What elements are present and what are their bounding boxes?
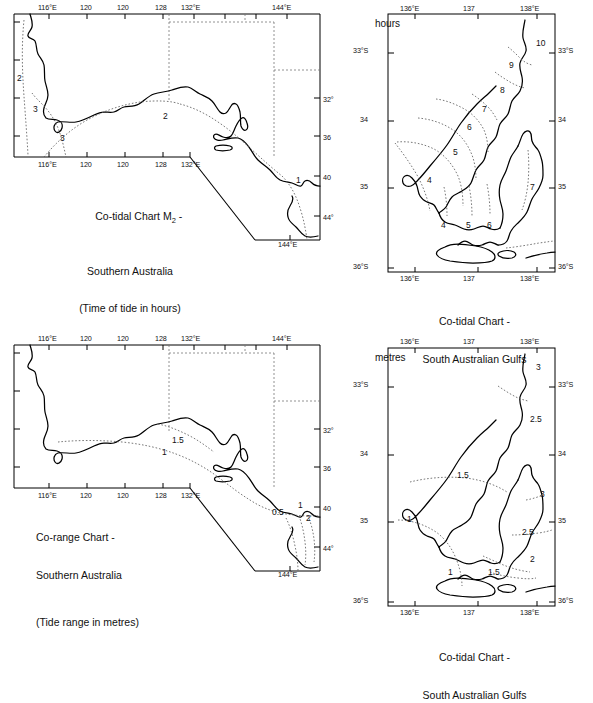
state-borders	[169, 14, 320, 158]
axis-label-x-top-0: 116°E	[38, 3, 57, 12]
panel-cotidal-sa-gulfs: hours 136°E 137 138°E 136°E 137 138°E 33…	[340, 0, 593, 320]
axis-label-x-top-0: 136°E	[400, 337, 419, 346]
contour-label-4: 6	[467, 122, 472, 132]
coastline-south-east-coast	[458, 241, 498, 246]
contour-4-lower	[444, 187, 447, 216]
contour-label-2: 3	[60, 133, 65, 143]
axis-label-x-bottom-2: 138°E	[520, 274, 539, 283]
contour-label-5: 2.5	[522, 527, 534, 537]
contour-1-lower	[457, 561, 462, 586]
ticks-left	[14, 353, 20, 467]
axis-label-y-right-1: 34	[558, 449, 566, 458]
axis-label-y-right-3: 36°S	[558, 596, 573, 605]
axis-label-x-bottom-1: 137	[463, 274, 475, 283]
contour-label-5: 5	[453, 147, 458, 157]
contour-1-west	[398, 520, 457, 561]
axis-label-y-right-2: 40	[323, 173, 331, 182]
contour-lines	[398, 386, 552, 586]
caption-cotidal-southern-australia: Co-tidal Chart M2 - Southern Australia (…	[30, 172, 230, 340]
axis-label-x-bottom-1: 120	[80, 491, 92, 500]
frame-box	[388, 14, 555, 272]
contour-label-2: 8	[500, 85, 505, 95]
coastline-mainland-south	[526, 586, 555, 592]
caption-line-1-main: Co-tidal Chart M	[95, 210, 171, 222]
coastline-kangaroo-island	[436, 244, 495, 263]
caption-line-1: Co-tidal Chart -	[392, 315, 557, 328]
contour-1	[58, 441, 320, 517]
island-outline	[215, 476, 233, 482]
coastline-gulf-st-vincent-west	[499, 480, 518, 562]
axis-label-x-top-5: 144°E	[272, 334, 291, 343]
contour-label-1: 1	[162, 447, 167, 457]
axis-label-x-top-1: 120	[80, 3, 92, 12]
island-outline	[215, 145, 233, 151]
caption-line-1: Co-tidal Chart -	[392, 651, 557, 664]
axis-label-x-top-1: 137	[463, 337, 475, 346]
axis-label-x-bottom-3: 128	[155, 491, 167, 500]
caption-line-1: Co-tidal Chart M2 -	[30, 197, 230, 240]
caption-line-1: Co-range Chart -	[36, 531, 236, 544]
caption-corange-sa-gulfs: Co-tidal Chart - South Australian Gulfs	[392, 626, 557, 703]
coastline-small-island-east	[498, 585, 516, 593]
contour-label-6: 4	[427, 175, 432, 185]
caption-line-2: Southern Australia	[30, 265, 230, 278]
coastline-mainland-south	[526, 252, 555, 258]
contour-label-3: 3	[540, 489, 545, 499]
map-cotidal-sa-gulfs: 10 9 8 7 6 5 4 4 5 6 7	[340, 0, 593, 320]
axis-label-x-top-2: 120	[117, 3, 129, 12]
axis-label-y-right-0: 32°	[323, 95, 334, 104]
contour-label-7: 4	[441, 220, 446, 230]
contour-label-0: 3	[536, 362, 541, 372]
axis-label-y-right-3: 44°	[323, 544, 334, 553]
contour-3-upper	[32, 93, 66, 157]
caption-line-2: South Australian Gulfs	[392, 689, 557, 702]
axis-label-x-bottom-4: 132°E	[181, 160, 200, 169]
axis-label-x-bottom-0: 116°E	[38, 491, 57, 500]
axis-label-y-left-1: 34	[360, 115, 368, 124]
axis-label-x-top-3: 128	[155, 334, 167, 343]
axis-label-y-right-0: 33°S	[558, 380, 573, 389]
contour-label-9: 6	[487, 220, 492, 230]
coastline-spencer-gulf	[439, 20, 526, 213]
axis-label-x-top-5: 144°E	[272, 3, 291, 12]
contour-label-10: 7	[530, 182, 535, 192]
contour-label-8: 1.5	[488, 567, 500, 577]
contour-east-tail	[506, 241, 555, 248]
axis-label-x-bottom-2: 120	[117, 160, 129, 169]
contour-label-2: 0.5	[272, 507, 284, 517]
axis-label-y-left-2: 35	[360, 516, 368, 525]
axis-label-y-left-0: 33°S	[353, 380, 368, 389]
axis-label-y-right-1: 36	[323, 133, 331, 142]
contour-2p5-upper	[498, 386, 528, 401]
axis-label-x-bottom-3: 128	[155, 160, 167, 169]
ticks-top	[49, 14, 287, 19]
axis-label-x-bottom-0: 116°E	[38, 160, 57, 169]
axis-label-x-top-2: 138°E	[520, 337, 539, 346]
axis-label-x-bottom-4: 132°E	[181, 491, 200, 500]
unit-label-hours: hours	[375, 18, 400, 29]
axis-label-y-left-0: 33°S	[353, 46, 368, 55]
coastline-fleurieu	[498, 131, 543, 245]
coastline-eyre-peninsula	[403, 420, 496, 547]
axis-label-x-top-1: 120	[80, 334, 92, 343]
ticks-right	[314, 98, 320, 216]
axis-label-x-top-3: 128	[155, 3, 167, 12]
axis-label-x-bottom-right: 144°E	[278, 240, 297, 249]
axis-label-y-right-2: 40	[323, 504, 331, 513]
contour-label-7: 1	[448, 567, 453, 577]
coastline-small-island-east	[498, 251, 516, 259]
caption-line-2: Southern Australia	[36, 569, 236, 582]
contour-1-east	[299, 516, 306, 565]
panel-cotidal-southern-australia: 116°E 120 120 128 132°E 144°E 116°E 120 …	[0, 0, 340, 300]
axis-label-x-bottom-0: 136°E	[400, 274, 419, 283]
coastline-spencer-gulf	[439, 354, 526, 547]
panel-corange-southern-australia: 116°E 120 120 128 132°E 144°E 116°E 120 …	[0, 330, 340, 630]
axis-label-y-right-3: 36°S	[558, 262, 573, 271]
caption-line-1-tail: -	[176, 210, 182, 222]
contour-1-tasman	[282, 176, 307, 240]
contour-label-3: 2	[163, 111, 168, 121]
contour-label-0: 1.5	[172, 435, 184, 445]
axis-label-x-top-4: 132°E	[181, 334, 200, 343]
axis-label-y-right-2: 35	[558, 516, 566, 525]
contour-label-4: 2	[306, 513, 311, 523]
